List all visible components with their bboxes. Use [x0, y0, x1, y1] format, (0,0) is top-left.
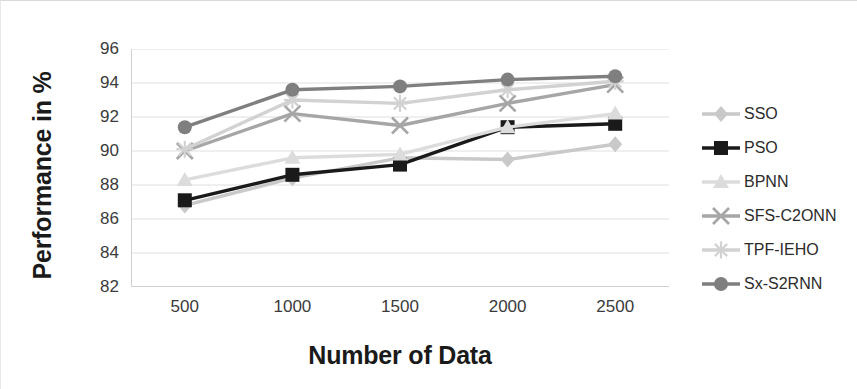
y-tick-label: 86 [79, 210, 119, 227]
marker-circle [501, 73, 515, 87]
x-tick-label: 1500 [355, 297, 445, 317]
plot-area [131, 49, 669, 287]
legend-marker-star-icon [701, 240, 741, 260]
legend-marker-diamond-icon [701, 104, 741, 124]
y-tick-label: 82 [79, 278, 119, 295]
y-tick-label: 84 [79, 244, 119, 261]
legend-label: PSO [741, 139, 778, 157]
legend-item-bpnn[interactable]: BPNN [701, 165, 851, 199]
y-tick-label: 92 [79, 108, 119, 125]
series-bpnn [177, 106, 623, 186]
legend-label: SSO [741, 105, 778, 123]
marker-diamond [501, 152, 515, 168]
marker-square [285, 168, 299, 182]
y-tick-label: 88 [79, 176, 119, 193]
marker-circle [608, 69, 622, 83]
legend-marker-triangle-icon [701, 172, 741, 192]
x-tick-label: 2500 [570, 297, 660, 317]
legend-marker-circle-icon [701, 274, 741, 294]
chart-legend: SSOPSOBPNNSFS-C2ONNTPF-IEHOSx-S2RNN [701, 97, 851, 301]
marker-diamond [714, 106, 728, 122]
y-axis-title: Performance in % [28, 51, 57, 301]
line-chart: Performance in % Number of Data 82848688… [0, 0, 857, 389]
legend-label: TPF-IEHO [741, 241, 819, 259]
x-tick-label: 2000 [463, 297, 553, 317]
marker-circle [285, 83, 299, 97]
legend-item-tpf-ieho[interactable]: TPF-IEHO [701, 233, 851, 267]
y-tick-label: 90 [79, 142, 119, 159]
x-tick-label: 1000 [247, 297, 337, 317]
legend-item-pso[interactable]: PSO [701, 131, 851, 165]
x-tick-label: 500 [140, 297, 230, 317]
legend-item-sfs-c2onn[interactable]: SFS-C2ONN [701, 199, 851, 233]
legend-item-sx-s2rnn[interactable]: Sx-S2RNN [701, 267, 851, 301]
legend-item-sso[interactable]: SSO [701, 97, 851, 131]
series-line [185, 85, 615, 151]
y-tick-label: 96 [79, 40, 119, 57]
legend-label: BPNN [741, 173, 788, 191]
marker-square [178, 193, 192, 207]
marker-diamond [608, 136, 622, 152]
marker-circle [393, 79, 407, 93]
legend-marker-square-icon [701, 138, 741, 158]
y-tick-label: 94 [79, 74, 119, 91]
legend-label: Sx-S2RNN [741, 275, 822, 293]
marker-square [714, 141, 728, 155]
legend-marker-x-icon [701, 206, 741, 226]
plot-svg [131, 49, 669, 287]
marker-circle [178, 120, 192, 134]
x-axis-title: Number of Data [131, 341, 669, 370]
marker-circle [714, 277, 728, 291]
legend-label: SFS-C2ONN [741, 207, 836, 225]
